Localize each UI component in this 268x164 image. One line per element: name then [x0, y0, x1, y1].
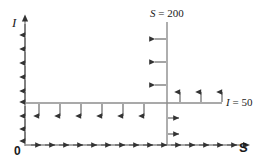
- origin-label: 0: [14, 145, 21, 157]
- direction-field-figure: I S 0 S = 200 I = 50: [0, 0, 268, 164]
- arrow-field: [25, 24, 237, 145]
- right-region-up-arrows: [180, 92, 222, 102]
- axis-lines: [25, 18, 246, 146]
- lower-vertical-right-arrows: [168, 118, 179, 134]
- axis-tips: [22, 15, 250, 149]
- nullcline-lines: [25, 22, 222, 145]
- vertical-nullcline-label: S = 200: [150, 8, 184, 19]
- vertical-nullcline-label-eq: = 200: [156, 7, 184, 19]
- y-axis-label: I: [12, 16, 16, 29]
- horizontal-nullcline-label: I = 50: [226, 97, 252, 108]
- horizontal-nullcline-label-eq: = 50: [230, 96, 253, 108]
- direction-field-canvas: [0, 0, 268, 164]
- lower-left-down-arrows: [39, 104, 144, 116]
- upper-vertical-left-arrows: [155, 39, 166, 85]
- x-axis-label: S: [239, 141, 248, 154]
- y-axis-arrowhead: [22, 15, 28, 22]
